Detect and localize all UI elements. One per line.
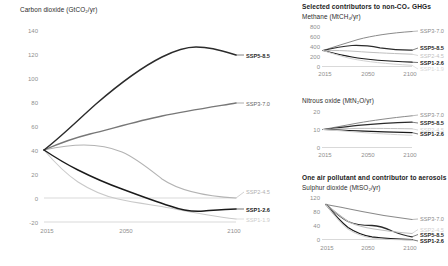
- n2o-ytick-0: 0: [317, 145, 321, 151]
- so2-xtick-2015: 2015: [320, 245, 334, 251]
- so2-label-ssp585: SSP5-8.5: [420, 232, 444, 238]
- carbon-dioxide-panel: Carbon dioxide (GtCO₂/yr) 140 120 100 80…: [4, 4, 300, 254]
- co2-ytick-100: 100: [28, 76, 39, 82]
- so2-series-ssp119: [326, 205, 412, 241]
- ch4-ytick-800: 800: [310, 24, 321, 30]
- co2-xtick-2015: 2015: [40, 228, 54, 234]
- n2o-label-ssp126: SSP1-2.6: [420, 131, 444, 137]
- n2o-xtick-2015: 2015: [318, 152, 332, 158]
- so2-ytick-0: 0: [317, 237, 321, 243]
- nitrous-oxide-plot: 20 10 0 SSP3-7.0 SSP5-8.5 SSP2-4.5 SSP1-…: [300, 106, 448, 169]
- co2-series-ssp245: [44, 145, 236, 198]
- n2o-leader-ssp126: [412, 133, 418, 134]
- nitrous-oxide-panel-title: Nitrous oxide (MtN₂O/yr): [302, 97, 374, 104]
- ch4-leader-ssp119: [412, 65, 418, 69]
- ch4-label-ssp370: SSP3-7.0: [420, 28, 444, 34]
- carbon-dioxide-panel-title: Carbon dioxide (GtCO₂/yr): [20, 6, 97, 13]
- so2-leader-ssp245: [412, 230, 418, 234]
- co2-label-ssp126: SSP1-2.6: [246, 207, 270, 213]
- so2-ytick-80: 80: [313, 209, 320, 215]
- ch4-xtick-2015: 2015: [318, 71, 332, 77]
- so2-ytick-120: 120: [310, 195, 321, 201]
- ch4-label-ssp585: SSP5-8.5: [420, 45, 444, 51]
- co2-xtick-2100: 2100: [227, 228, 241, 234]
- sulphur-dioxide-panel-title: Sulphur dioxide (MtSO₂/yr): [302, 184, 381, 191]
- co2-xtick-2050: 2050: [119, 228, 133, 234]
- ch4-leader-ssp370: [412, 31, 418, 32]
- so2-series-ssp370: [326, 205, 412, 220]
- co2-label-ssp245: SSP2-4.5: [246, 189, 270, 195]
- methane-svg: 800 600 400 200 0 SSP3-7.0 SSP5-8.5 SSP2…: [300, 22, 448, 85]
- ch4-leader-ssp585: [412, 48, 418, 50]
- aerosol-section-heading: One air pollutant and contributor to aer…: [302, 174, 446, 181]
- sulphur-dioxide-svg: 120 80 40 0 SSP3-7.0 SSP2-4.5 SSP5-8.5 S…: [300, 193, 448, 262]
- so2-leader-ssp585: [412, 235, 418, 237]
- methane-panel-title: Methane (MtCH₄/yr): [302, 13, 361, 20]
- ch4-leader-ssp245: [412, 54, 418, 55]
- methane-plot: 800 600 400 200 0 SSP3-7.0 SSP5-8.5 SSP2…: [300, 22, 448, 85]
- co2-ytick-0: 0: [35, 196, 39, 202]
- n2o-ytick-20: 20: [313, 109, 320, 115]
- co2-ytick-80: 80: [31, 100, 38, 106]
- ch4-xtick-2050: 2050: [361, 71, 375, 77]
- sulphur-dioxide-plot: 120 80 40 0 SSP3-7.0 SSP2-4.5 SSP5-8.5 S…: [300, 193, 448, 262]
- n2o-leader-ssp370: [412, 115, 418, 116]
- ch4-series-ssp119: [323, 51, 412, 66]
- carbon-dioxide-svg: 140 120 100 80 60 40 20 0 -20 S: [4, 16, 300, 248]
- co2-series-ssp370: [44, 103, 236, 150]
- sulphur-dioxide-panel: Sulphur dioxide (MtSO₂/yr) 120 80 40 0 S…: [300, 184, 448, 262]
- co2-ytick-20: 20: [31, 172, 38, 178]
- ch4-label-ssp245: SSP2-4.5: [420, 53, 444, 59]
- co2-ytick-40: 40: [31, 148, 38, 154]
- nitrous-oxide-panel: Nitrous oxide (MtN₂O/yr) 20 10 0 SSP3-7.…: [300, 97, 448, 169]
- so2-xtick-2050: 2050: [361, 245, 375, 251]
- carbon-dioxide-plot: 140 120 100 80 60 40 20 0 -20 S: [4, 16, 300, 248]
- co2-series-ssp585: [44, 47, 236, 150]
- ch4-label-ssp126: SSP1-2.6: [420, 60, 444, 66]
- so2-ytick-40: 40: [313, 223, 320, 229]
- n2o-leader-ssp245: [412, 129, 418, 130]
- co2-ytick-140: 140: [28, 28, 39, 34]
- co2-ytick-60: 60: [31, 124, 38, 130]
- nitrous-oxide-svg: 20 10 0 SSP3-7.0 SSP5-8.5 SSP2-4.5 SSP1-…: [300, 106, 448, 169]
- so2-label-ssp126: SSP1-2.6: [420, 238, 444, 244]
- n2o-xtick-2050: 2050: [361, 152, 375, 158]
- co2-ytick-neg20: -20: [29, 220, 38, 226]
- co2-ytick-120: 120: [28, 52, 39, 58]
- n2o-leader-ssp585: [412, 122, 418, 123]
- n2o-label-ssp370: SSP3-7.0: [420, 112, 444, 118]
- methane-panel: Methane (MtCH₄/yr) 800 600 400 200 0 SSP…: [300, 13, 448, 85]
- so2-leader-ssp126: [412, 240, 418, 241]
- nonco2-section-heading: Selected contributors to non-CO₂ GHGs: [302, 3, 431, 10]
- n2o-ytick-10: 10: [313, 127, 320, 133]
- ch4-ytick-600: 600: [310, 34, 321, 40]
- n2o-series-ssp245: [323, 128, 412, 129]
- n2o-xtick-2100: 2100: [403, 152, 417, 158]
- n2o-label-ssp585: SSP5-8.5: [420, 120, 444, 126]
- ch4-xtick-2100: 2100: [403, 71, 417, 77]
- ch4-ytick-0: 0: [317, 64, 321, 70]
- co2-series-ssp126: [44, 150, 236, 211]
- co2-label-ssp585: SSP5-8.5: [246, 53, 270, 59]
- so2-xtick-2100: 2100: [403, 245, 417, 251]
- co2-label-ssp370: SSP3-7.0: [246, 101, 270, 107]
- ch4-ytick-200: 200: [310, 54, 321, 60]
- co2-series-ssp119: [44, 150, 236, 219]
- co2-leader-ssp245: [236, 192, 244, 198]
- ch4-ytick-400: 400: [310, 44, 321, 50]
- ch4-label-ssp119: SSP1-1.9: [420, 66, 444, 72]
- so2-series-ssp126: [326, 205, 412, 240]
- co2-label-ssp119: SSP1-1.9: [246, 217, 270, 223]
- so2-leader-ssp370: [412, 219, 418, 220]
- so2-label-ssp370: SSP3-7.0: [420, 216, 444, 222]
